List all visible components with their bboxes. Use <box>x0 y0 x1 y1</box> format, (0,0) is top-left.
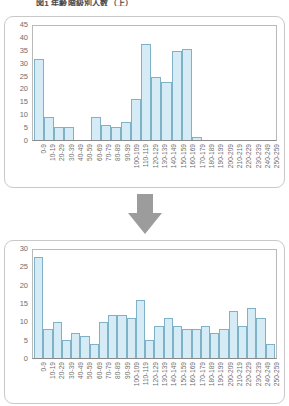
x-tick: 240-249 <box>257 361 266 403</box>
y-tick-label: 35 <box>20 47 28 55</box>
y-tick-label: 30 <box>20 60 28 68</box>
x-tick: 10-19 <box>42 143 51 187</box>
bar <box>43 329 52 358</box>
x-tick: 190-199 <box>211 143 220 187</box>
arrow-shape <box>128 194 162 234</box>
x-tick: 90-99 <box>117 361 126 403</box>
bar <box>136 300 145 358</box>
x-tick: 20-29 <box>52 143 61 187</box>
bar <box>210 333 219 358</box>
bar <box>99 322 108 358</box>
bar-series-bottom <box>33 250 276 358</box>
x-tick: 150-159 <box>173 143 182 187</box>
bar <box>108 315 117 358</box>
x-tick-label: 250-259 <box>275 144 282 168</box>
x-tick: 60-69 <box>89 361 98 403</box>
x-tick: 100-109 <box>126 143 135 187</box>
x-tick: 30-39 <box>61 143 70 187</box>
x-tick: 230-239 <box>248 361 257 403</box>
x-tick: 180-189 <box>201 361 210 403</box>
y-tick-label: 5 <box>24 337 28 345</box>
bar <box>71 333 80 358</box>
bar <box>151 77 161 140</box>
x-tick: 40-49 <box>70 143 79 187</box>
x-tick: 0-9 <box>33 143 42 187</box>
bar <box>192 329 201 358</box>
y-tick-label: 5 <box>24 124 28 132</box>
x-tick: 160-169 <box>183 361 192 403</box>
x-tick-label: 250-259 <box>275 362 282 386</box>
y-axis-bottom: 051015202530 <box>5 249 30 359</box>
bar <box>101 125 111 140</box>
bar <box>62 340 71 358</box>
bar-series-top <box>33 26 276 140</box>
bar <box>229 311 238 358</box>
bar <box>111 127 121 140</box>
x-tick: 100-109 <box>126 361 135 403</box>
bar <box>145 340 154 358</box>
x-tick: 160-169 <box>183 143 192 187</box>
bar <box>34 257 43 358</box>
bar <box>34 59 44 140</box>
bar <box>90 344 99 358</box>
x-tick: 170-179 <box>192 143 201 187</box>
x-tick: 170-179 <box>192 361 201 403</box>
bar <box>266 344 275 358</box>
bar <box>127 318 136 358</box>
x-tick: 50-59 <box>80 143 89 187</box>
plot-area-top <box>32 25 277 141</box>
x-tick: 120-129 <box>145 143 154 187</box>
x-tick: 210-219 <box>229 143 238 187</box>
bar <box>161 82 171 140</box>
bar <box>173 326 182 358</box>
x-tick: 250-259 <box>267 361 276 403</box>
x-tick: 80-89 <box>108 361 117 403</box>
bar <box>91 117 101 140</box>
x-tick: 30-39 <box>61 361 70 403</box>
y-tick-label: 10 <box>20 319 28 327</box>
bar <box>182 329 191 358</box>
plot-area-bottom <box>32 249 277 359</box>
arrow-stem <box>137 194 153 214</box>
x-tick: 10-19 <box>42 361 51 403</box>
y-tick-label: 25 <box>20 73 28 81</box>
y-axis-top: 051015202530354045 <box>5 25 30 141</box>
bar <box>53 322 62 358</box>
y-tick-label: 25 <box>20 264 28 272</box>
x-tick: 140-149 <box>164 143 173 187</box>
bar <box>172 51 182 140</box>
x-tick: 230-239 <box>248 143 257 187</box>
arrow-down-icon <box>0 192 289 236</box>
bar <box>131 99 141 140</box>
y-tick-label: 0 <box>24 137 28 145</box>
y-tick-label: 15 <box>20 99 28 107</box>
bar <box>247 308 256 358</box>
y-tick-label: 40 <box>20 34 28 42</box>
y-tick-label: 10 <box>20 111 28 119</box>
y-tick-label: 20 <box>20 282 28 290</box>
bar <box>219 329 228 358</box>
arrow-head <box>128 213 162 234</box>
x-tick: 200-209 <box>220 143 229 187</box>
x-tick: 60-69 <box>89 143 98 187</box>
bar <box>154 326 163 358</box>
x-tick: 130-139 <box>154 361 163 403</box>
y-tick-label: 0 <box>24 355 28 363</box>
x-tick: 140-149 <box>164 361 173 403</box>
bar <box>141 44 151 140</box>
chart-panel-bottom: 051015202530 0-910-1920-2930-3940-4950-5… <box>4 240 285 404</box>
x-tick: 70-79 <box>98 143 107 187</box>
bar <box>54 127 64 140</box>
x-tick: 150-159 <box>173 361 182 403</box>
bar <box>121 122 131 140</box>
x-tick: 110-119 <box>136 143 145 187</box>
x-tick: 40-49 <box>70 361 79 403</box>
bar <box>44 117 54 140</box>
x-tick: 90-99 <box>117 143 126 187</box>
y-tick-label: 20 <box>20 86 28 94</box>
x-tick: 70-79 <box>98 361 107 403</box>
chart-panel-top: 051015202530354045 0-910-1920-2930-3940-… <box>4 16 285 188</box>
bar <box>182 49 192 140</box>
y-tick-label: 30 <box>20 245 28 253</box>
x-tick: 120-129 <box>145 361 154 403</box>
